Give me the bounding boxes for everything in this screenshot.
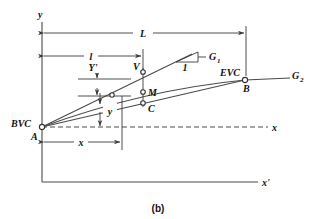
- dimension-Yprime-group: Y': [78, 60, 131, 96]
- dimension-Yprime-label: Y': [89, 62, 98, 73]
- grade-line-g2-subscript: 2: [299, 76, 304, 84]
- slope-marker-hypotenuse: [176, 52, 198, 62]
- point-node-offset: [110, 93, 114, 97]
- point-label-BVC: BVC: [10, 118, 31, 129]
- grade-line-g1-subscript: 1: [217, 57, 221, 65]
- x-prime-axis-label: x': [261, 177, 270, 188]
- dimension-x-group: x: [44, 134, 120, 148]
- figure-container: L l x Y' y: [0, 0, 317, 219]
- y-axis-label: y: [37, 9, 43, 20]
- point-label-C: C: [148, 103, 155, 114]
- grade-line-g2-extension: [245, 78, 290, 80]
- figure-caption: (b): [152, 203, 165, 214]
- point-node-M: [141, 90, 146, 95]
- point-label-EVC: EVC: [219, 67, 240, 78]
- dimension-x-label: x: [78, 137, 84, 148]
- axis-group: [42, 22, 268, 182]
- point-node-A: [39, 124, 44, 129]
- grade-line-g2-label: G: [292, 70, 300, 81]
- dimension-L-label: L: [139, 28, 146, 39]
- slope-marker-run-label: 1: [183, 62, 188, 73]
- point-node-B: [242, 77, 247, 82]
- point-label-V: V: [133, 61, 141, 72]
- vertical-curve-diagram: L l x Y' y: [0, 0, 317, 219]
- grade-line-g1-label: G: [209, 51, 217, 62]
- x-axis-label: x: [271, 122, 277, 133]
- point-label-B: B: [242, 83, 250, 94]
- point-label-A: A: [30, 131, 38, 142]
- point-node-C: [141, 101, 146, 106]
- grade-line-g2-group: [42, 78, 290, 127]
- label-group: y x x' BVC A V M C EVC B G 1 G 2 1: [10, 9, 304, 188]
- point-label-M: M: [147, 87, 158, 98]
- dimension-y-label: y: [107, 106, 113, 117]
- point-node-V: [141, 70, 146, 75]
- grade-line-g1-group: [42, 52, 206, 127]
